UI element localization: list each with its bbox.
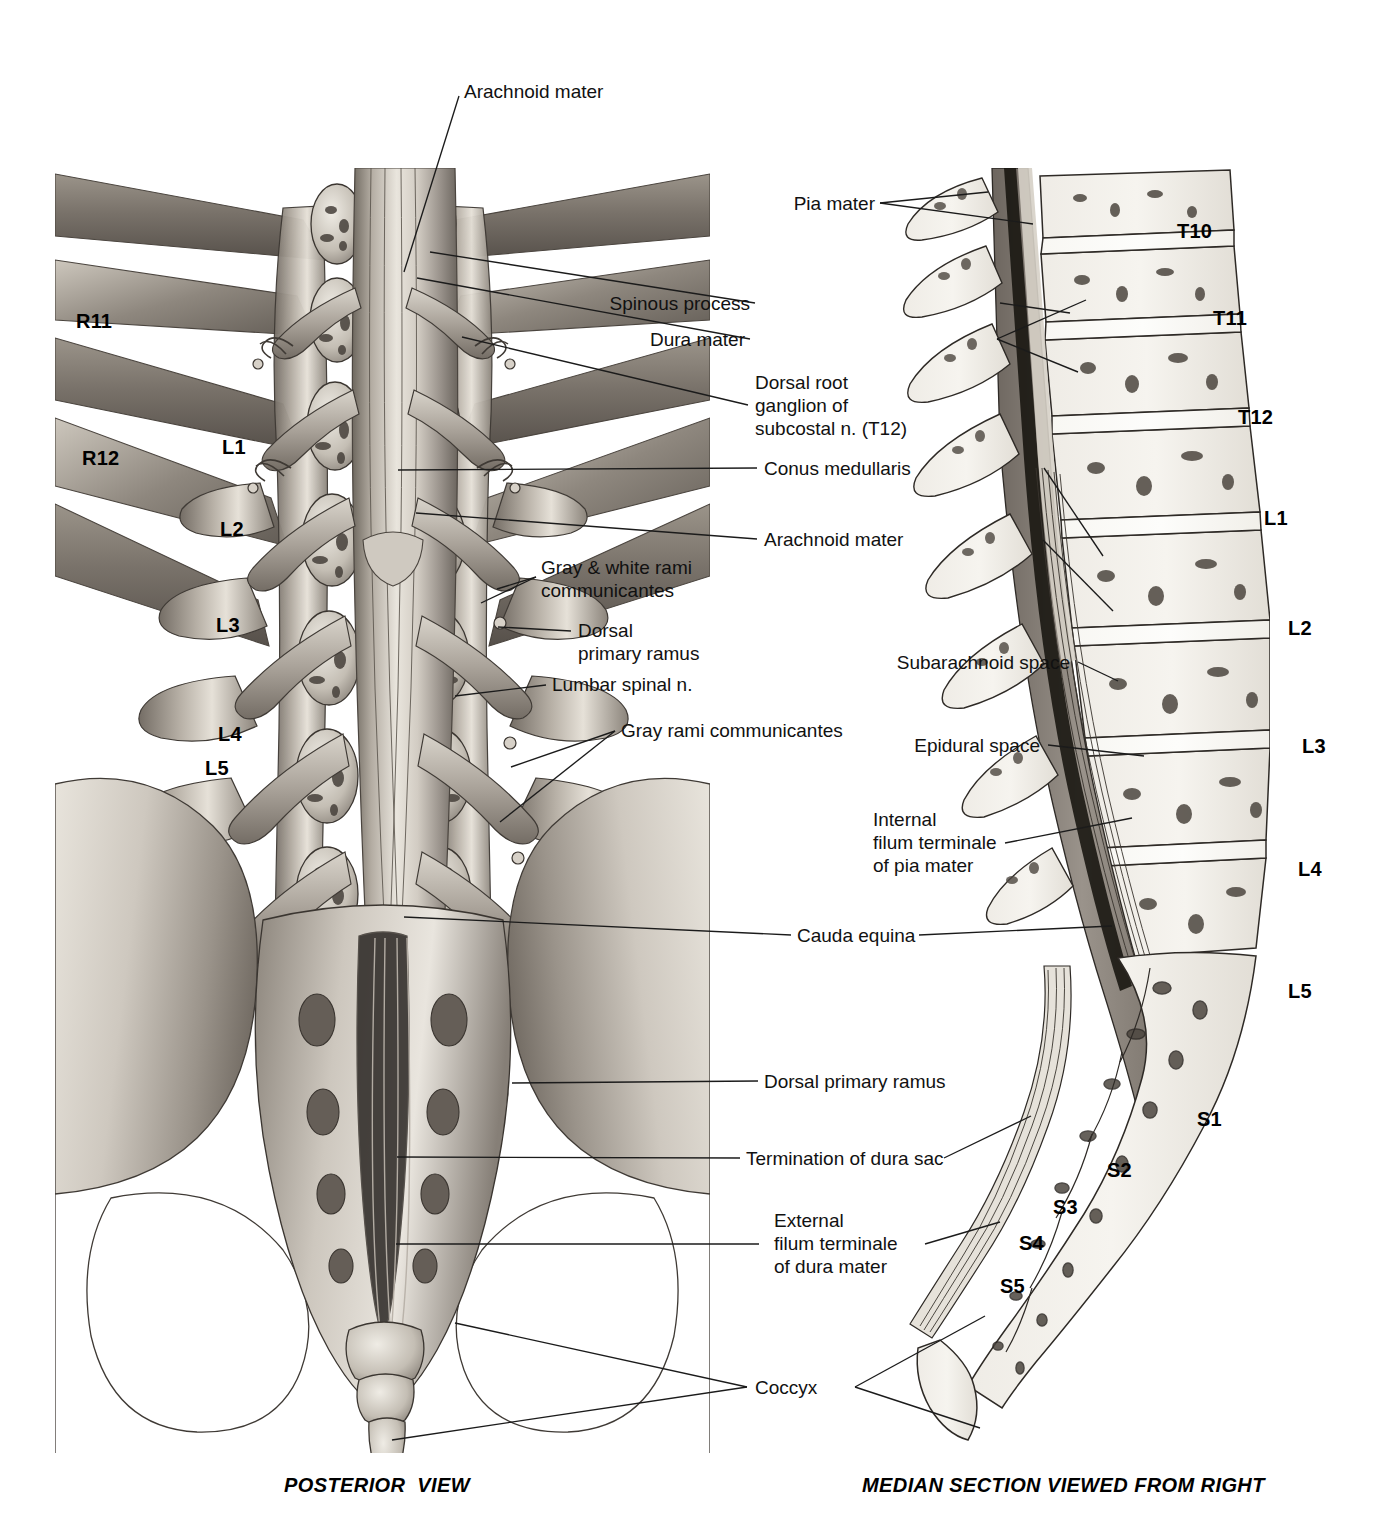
vertebra-label-S3: S3 <box>1053 1196 1078 1219</box>
callout-cauda-equina: Cauda equina <box>797 924 915 947</box>
vertebra-label-T12: T12 <box>1238 406 1273 429</box>
vertebra-label-S1: S1 <box>1197 1108 1222 1131</box>
bone-label-L5: L5 <box>205 757 229 780</box>
vertebra-label-L4: L4 <box>1298 858 1322 881</box>
callout-dorsal-primary-ramus-upper: Dorsal primary ramus <box>578 619 699 665</box>
callout-dorsal-primary-ramus-lower: Dorsal primary ramus <box>764 1070 946 1093</box>
vertebra-label-T11: T11 <box>1213 307 1247 330</box>
callout-coccyx: Coccyx <box>755 1376 817 1399</box>
bone-label-R12: R12 <box>82 447 119 470</box>
left-panel-caption: POSTERIOR VIEW <box>284 1474 470 1497</box>
callout-gray-white-rami-communicantes: Gray & white rami communicantes <box>541 556 692 602</box>
callout-conus-medullaris: Conus medullaris <box>764 457 911 480</box>
callout-termination-of-dura-sac: Termination of dura sac <box>746 1147 944 1170</box>
bone-label-L2: L2 <box>220 518 244 541</box>
vertebra-label-S5: S5 <box>1000 1275 1025 1298</box>
bone-label-L3: L3 <box>216 614 240 637</box>
callout-gray-rami-communicantes: Gray rami communicantes <box>621 719 843 742</box>
callout-arachnoid-mater-top: Arachnoid mater <box>464 80 603 103</box>
callout-spinous-process: Spinous process <box>555 292 750 315</box>
callout-internal-filum-terminale: Internal filum terminale of pia mater <box>873 808 997 877</box>
callout-arachnoid-mater-mid: Arachnoid mater <box>764 528 903 551</box>
callout-epidural-space: Epidural space <box>852 734 1040 757</box>
right-panel-caption: MEDIAN SECTION VIEWED FROM RIGHT <box>862 1474 1265 1497</box>
vertebra-label-T10: T10 <box>1177 220 1212 243</box>
callout-external-filum-terminale: External filum terminale of dura mater <box>774 1209 898 1278</box>
vertebra-label-L2: L2 <box>1288 617 1312 640</box>
callout-dura-mater: Dura mater <box>555 328 745 351</box>
callout-pia-mater: Pia mater <box>700 192 875 215</box>
vertebra-label-L5: L5 <box>1288 980 1312 1003</box>
bone-label-L4: L4 <box>218 723 242 746</box>
vertebra-label-S4: S4 <box>1019 1232 1044 1255</box>
callout-subarachnoid-space: Subarachnoid space <box>818 651 1070 674</box>
figure-root: R11 R12 L1 L2 L3 L4 L5 Arachnoid mater G… <box>0 0 1396 1514</box>
vertebra-label-L1: L1 <box>1264 507 1288 530</box>
bone-label-R11: R11 <box>76 310 112 333</box>
vertebra-label-L3: L3 <box>1302 735 1326 758</box>
vertebra-label-S2: S2 <box>1107 1159 1132 1182</box>
callout-lumbar-spinal-n: Lumbar spinal n. <box>552 673 692 696</box>
callout-dorsal-root-ganglion-subcostal: Dorsal root ganglion of subcostal n. (T1… <box>755 371 907 440</box>
bone-label-L1: L1 <box>222 436 246 459</box>
